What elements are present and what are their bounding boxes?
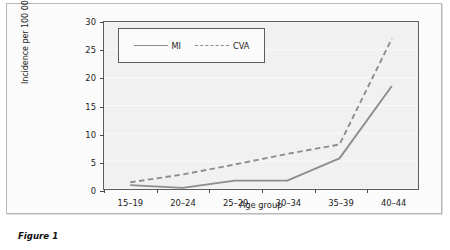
y-tick-label: 10 [66, 130, 96, 140]
y-tick-mark [100, 50, 104, 51]
x-tick-mark [315, 189, 316, 193]
chart-legend: MICVA [118, 28, 265, 63]
x-tick-mark [104, 189, 105, 193]
figure-card: Incidence per 100 000 women–years 051015… [6, 3, 442, 214]
legend-line-swatch-dashed [195, 45, 229, 46]
y-tick-mark [100, 22, 104, 23]
legend-label: CVA [233, 41, 249, 51]
series-line-mi [130, 86, 392, 188]
y-tick-label: 25 [66, 45, 96, 55]
y-tick-label: 20 [66, 73, 96, 83]
y-tick-mark [100, 163, 104, 164]
x-tick-mark [157, 189, 158, 193]
figure-container: Incidence per 100 000 women–years 051015… [0, 0, 450, 250]
y-tick-mark [100, 78, 104, 79]
chart-plot-area: 051015202530 15–1920–2425–2930–3435–3940… [103, 21, 419, 190]
figure-caption: Figure 1 [18, 231, 58, 241]
x-tick-mark [262, 189, 263, 193]
y-axis-title: Incidence per 100 000 women–years [20, 0, 30, 99]
y-tick-label: 5 [66, 158, 96, 168]
legend-entry-cva: CVA [195, 41, 249, 51]
y-tick-mark [100, 107, 104, 108]
y-tick-label: 30 [66, 17, 96, 27]
y-tick-mark [100, 135, 104, 136]
legend-line-swatch-solid [134, 45, 168, 46]
x-tick-mark [367, 189, 368, 193]
legend-entry-mi: MI [134, 41, 181, 51]
x-tick-mark [209, 189, 210, 193]
y-tick-label: 15 [66, 102, 96, 112]
y-tick-label: 0 [66, 186, 96, 196]
legend-label: MI [172, 41, 181, 51]
x-axis-title: Age group [103, 200, 419, 210]
